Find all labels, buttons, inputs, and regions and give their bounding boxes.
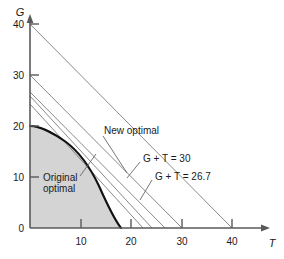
x-axis-title: T	[269, 237, 277, 249]
x-tick-label-20: 20	[125, 236, 137, 247]
leader-line-new-optimal	[103, 136, 127, 173]
annotation-original-optimal-line1: Original	[43, 172, 77, 183]
chart-figure: 40 30 20 10 0 10 20 30 40 G T New optima…	[0, 0, 284, 259]
origin-label: 0	[18, 223, 24, 234]
annotation-new-optimal: New optimal	[104, 125, 159, 136]
x-tick-label-10: 10	[75, 236, 87, 247]
x-tick-label-40: 40	[226, 236, 238, 247]
y-tick-label-30: 30	[13, 70, 25, 81]
y-axis-title: G	[16, 6, 25, 18]
y-tick-label-40: 40	[13, 19, 25, 30]
annotation-original-optimal-line2: optimal	[43, 183, 75, 194]
leader-line-iso-30	[127, 162, 140, 178]
x-tick-label-30: 30	[176, 236, 188, 247]
y-tick-label-20: 20	[13, 121, 25, 132]
y-tick-label-10: 10	[13, 172, 25, 183]
chart-svg: 40 30 20 10 0 10 20 30 40 G T New optima…	[0, 0, 284, 259]
leader-line-iso-267	[140, 180, 152, 200]
annotation-iso-267: G + T = 26.7	[155, 171, 211, 182]
annotation-iso-30: G + T = 30	[143, 153, 191, 164]
